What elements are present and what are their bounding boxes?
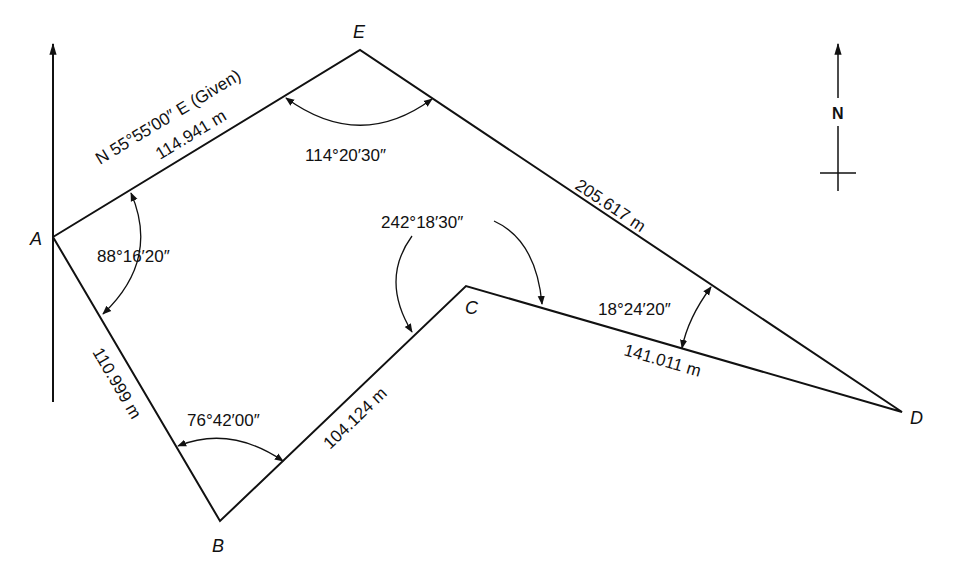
angle-arc-c-left bbox=[396, 236, 412, 332]
traverse-diagram: A E C D B N 55°55′00″ E (Given) 114.941 … bbox=[0, 0, 956, 578]
north-label: N bbox=[832, 105, 844, 122]
vertex-label-e: E bbox=[353, 22, 366, 42]
angle-arc-e bbox=[286, 98, 432, 125]
north-arrow-icon: N bbox=[820, 44, 856, 191]
angle-arc-b bbox=[178, 438, 283, 461]
vertex-label-d: D bbox=[910, 408, 923, 428]
angle-label-c: 242°18′30″ bbox=[381, 213, 463, 232]
vertex-label-b: B bbox=[212, 536, 224, 556]
angle-arc-c-right bbox=[494, 221, 542, 304]
angle-label-a: 88°16′20″ bbox=[97, 247, 170, 266]
angle-label-b: 76°42′00″ bbox=[187, 411, 260, 430]
side-dc-length: 141.011 m bbox=[622, 341, 703, 381]
vertex-label-a: A bbox=[29, 229, 42, 249]
angle-label-e: 114°20′30″ bbox=[305, 146, 386, 165]
vertex-label-c: C bbox=[465, 298, 479, 318]
side-cb-length: 104.124 m bbox=[320, 384, 391, 453]
side-ed-length: 205.617 m bbox=[572, 176, 649, 236]
angle-label-d: 18°24′20″ bbox=[598, 300, 671, 319]
angle-arc-d bbox=[682, 287, 711, 348]
side-ba-length: 110.999 m bbox=[89, 344, 146, 422]
